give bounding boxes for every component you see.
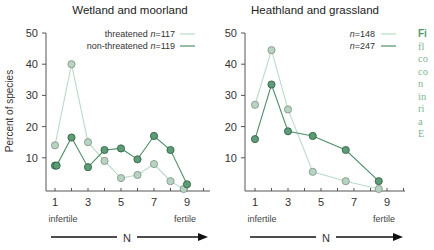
y-tick-label: 10 — [26, 152, 38, 164]
legend-label-non-threatened: n=247 — [350, 41, 375, 51]
data-point-non-threatened — [309, 132, 316, 139]
x-annotation-infertile: infertile — [247, 214, 276, 224]
caption-line: co — [418, 66, 434, 79]
y-tick-label: 40 — [225, 58, 237, 70]
y-tick-label: 50 — [225, 27, 237, 39]
data-point-non-threatened — [53, 162, 60, 169]
x-tick-label: 5 — [318, 196, 324, 208]
x-tick-label: 9 — [184, 196, 190, 208]
legend-label-threatened: threatened n=117 — [105, 29, 175, 39]
data-point-threatened — [150, 160, 157, 167]
data-point-threatened — [134, 171, 141, 178]
caption-line: fl — [418, 41, 434, 54]
data-point-threatened — [101, 157, 108, 164]
caption-line: in — [418, 91, 434, 104]
caption-line: E — [418, 128, 434, 141]
y-tick-label: 20 — [26, 121, 38, 133]
arrow-head-icon — [198, 233, 208, 241]
caption-line: n — [418, 78, 434, 91]
x-tick-label: 3 — [85, 196, 91, 208]
x-tick-label: 5 — [118, 196, 124, 208]
caption-line: Fi — [418, 28, 434, 41]
data-point-non-threatened — [375, 178, 382, 185]
y-tick-label: 50 — [26, 27, 38, 39]
data-point-non-threatened — [150, 132, 157, 139]
y-tick-label: 40 — [26, 58, 38, 70]
caption-line: co — [418, 53, 434, 66]
data-point-non-threatened — [134, 156, 141, 163]
x-axis-label: N — [322, 232, 330, 244]
data-point-threatened — [167, 178, 174, 185]
data-point-non-threatened — [251, 135, 258, 142]
figure-canvas: Wetland and moorland102030405013579infer… — [0, 0, 434, 250]
figure-caption-clipped: FiflcoconinriaE — [418, 3, 434, 153]
data-point-non-threatened — [342, 146, 349, 153]
data-point-threatened — [284, 106, 291, 113]
y-tick-label: 30 — [225, 89, 237, 101]
legend-label-threatened: n=148 — [350, 29, 375, 39]
legend-label-non-threatened: non-threatened n=119 — [87, 41, 175, 51]
data-point-threatened — [309, 168, 316, 175]
data-point-threatened — [51, 142, 58, 149]
data-point-threatened — [268, 47, 275, 54]
chart-title: Wetland and moorland — [72, 4, 188, 16]
y-tick-label: 30 — [26, 89, 38, 101]
data-point-non-threatened — [101, 146, 108, 153]
chart-title: Heathland and grassland — [251, 4, 379, 16]
x-tick-label: 7 — [351, 196, 357, 208]
x-tick-label: 7 — [151, 196, 157, 208]
y-axis-label: Percent of species — [4, 70, 15, 152]
data-point-threatened — [84, 139, 91, 146]
data-point-non-threatened — [117, 145, 124, 152]
x-tick-label: 1 — [252, 196, 258, 208]
y-tick-label: 10 — [225, 152, 237, 164]
caption-line: ri — [418, 103, 434, 116]
x-tick-label: 3 — [285, 196, 291, 208]
x-axis-label: N — [123, 232, 131, 244]
data-point-threatened — [117, 174, 124, 181]
data-point-threatened — [375, 185, 382, 192]
x-annotation-fertile: fertile — [373, 214, 395, 224]
x-annotation-infertile: infertile — [48, 214, 77, 224]
data-point-threatened — [251, 101, 258, 108]
y-tick-label: 20 — [225, 121, 237, 133]
data-point-non-threatened — [268, 81, 275, 88]
x-annotation-fertile: fertile — [174, 214, 196, 224]
caption-line: a — [418, 116, 434, 129]
data-point-threatened — [68, 61, 75, 68]
chart-panel-1: Wetland and moorland102030405013579infer… — [4, 4, 210, 244]
data-point-non-threatened — [84, 164, 91, 171]
x-tick-label: 9 — [384, 196, 390, 208]
series-line-non-threatened — [255, 84, 379, 181]
arrow-head-icon — [393, 233, 403, 241]
series-line-threatened — [55, 64, 184, 189]
data-point-non-threatened — [284, 128, 291, 135]
x-tick-label: 1 — [52, 196, 58, 208]
series-line-threatened — [255, 50, 379, 189]
data-point-threatened — [342, 178, 349, 185]
data-point-non-threatened — [167, 146, 174, 153]
data-point-non-threatened — [183, 181, 190, 188]
chart-panel-2: Heathland and grassland102030405013579in… — [225, 4, 405, 244]
data-point-non-threatened — [68, 134, 75, 141]
